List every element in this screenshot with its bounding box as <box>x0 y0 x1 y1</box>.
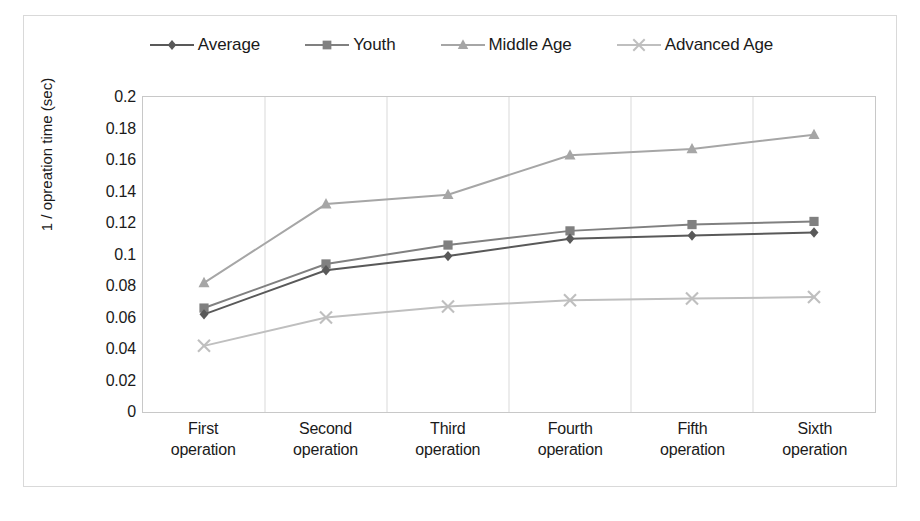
data-point-square <box>687 220 696 229</box>
y-axis-title: 1 / opreation time (sec) <box>38 0 55 345</box>
data-point-square <box>443 240 452 249</box>
x-axis-tick: Fourthoperation <box>509 418 631 478</box>
x-axis-tick-line1: Sixth <box>798 420 833 437</box>
data-point-triangle <box>808 129 819 139</box>
x-axis-tick: Firstoperation <box>142 418 264 478</box>
legend-entry-youth[interactable]: Youth <box>304 35 395 55</box>
y-axis-tick: 0.18 <box>66 120 136 138</box>
cross-marker-icon <box>616 36 662 54</box>
legend-label: Advanced Age <box>665 35 773 55</box>
legend-label: Youth <box>353 35 395 55</box>
x-axis-tick-line2: operation <box>631 439 753 460</box>
legend-entry-middle-age[interactable]: Middle Age <box>440 35 572 55</box>
y-axis-tick: 0.04 <box>66 340 136 358</box>
data-point-square <box>809 217 818 226</box>
x-axis-tick-line1: First <box>188 420 218 437</box>
x-axis-tick-line2: operation <box>754 439 876 460</box>
legend-entry-average[interactable]: Average <box>149 35 260 55</box>
y-axis-tick: 0.12 <box>66 214 136 232</box>
x-axis-tick: Thirdoperation <box>387 418 509 478</box>
x-axis-tick-line2: operation <box>509 439 631 460</box>
x-axis-tick: Secondoperation <box>264 418 386 478</box>
y-axis-tick: 0.08 <box>66 277 136 295</box>
x-axis-tick-line2: operation <box>387 439 509 460</box>
x-axis-tick: Sixthoperation <box>754 418 876 478</box>
triangle-marker-icon <box>440 36 486 54</box>
plot-area <box>142 96 876 413</box>
line-chart: AverageYouthMiddle AgeAdvanced Age 1 / o… <box>23 15 897 487</box>
y-axis-tick: 0.02 <box>66 372 136 390</box>
data-point-triangle <box>198 277 209 287</box>
x-axis-tick: Fifthoperation <box>631 418 753 478</box>
x-axis-tick-line1: Second <box>299 420 352 437</box>
x-axis-tick-line1: Third <box>430 420 465 437</box>
square-marker-icon <box>304 36 350 54</box>
y-axis-tick: 0.16 <box>66 151 136 169</box>
legend-label: Middle Age <box>489 35 572 55</box>
y-axis-tick: 0.2 <box>66 88 136 106</box>
y-axis-tick: 0.06 <box>66 309 136 327</box>
data-point-diamond <box>688 230 697 240</box>
y-axis-tick: 0.1 <box>66 246 136 264</box>
x-axis-tick-labels: FirstoperationSecondoperationThirdoperat… <box>142 418 876 478</box>
x-axis-tick-line2: operation <box>142 439 264 460</box>
chart-legend: AverageYouthMiddle AgeAdvanced Age <box>24 30 898 60</box>
x-axis-tick-line1: Fourth <box>548 420 593 437</box>
plot-svg <box>143 97 875 412</box>
x-axis-tick-line2: operation <box>264 439 386 460</box>
y-axis-tick: 0 <box>66 403 136 421</box>
x-axis-tick-line1: Fifth <box>677 420 707 437</box>
y-axis-tick-labels: 0.20.180.160.140.120.10.080.060.040.020 <box>66 96 136 413</box>
diamond-marker-icon <box>149 36 195 54</box>
legend-label: Average <box>198 35 260 55</box>
data-point-diamond <box>444 251 453 261</box>
data-point-diamond <box>810 227 819 237</box>
legend-entry-advanced-age[interactable]: Advanced Age <box>616 35 773 55</box>
y-axis-tick: 0.14 <box>66 183 136 201</box>
